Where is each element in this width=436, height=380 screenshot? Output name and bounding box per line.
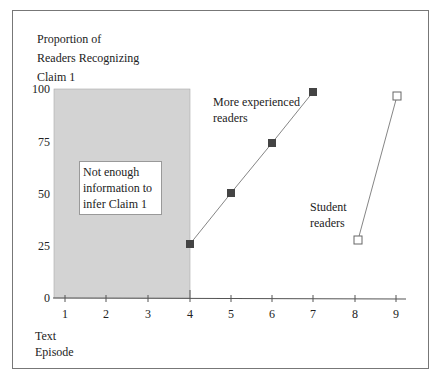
- plot-area: 12 34 56 78 9 0 25 50 75 100: [0, 0, 436, 380]
- svg-text:6: 6: [269, 307, 275, 321]
- x-title-line: Text: [35, 328, 74, 344]
- svg-text:9: 9: [393, 307, 399, 321]
- x-axis-title: Text Episode: [35, 328, 74, 360]
- note-line: Not enough: [83, 164, 158, 180]
- x-tick-labels: 12 34 56 78 9: [62, 307, 399, 321]
- svg-text:5: 5: [228, 307, 234, 321]
- note-line: information to: [83, 180, 158, 196]
- svg-text:50: 50: [38, 187, 50, 201]
- label-line: More experienced: [213, 94, 300, 110]
- y-tick-labels: 0 25 50 75 100: [32, 82, 50, 305]
- series-label-experienced: More experienced readers: [213, 94, 300, 126]
- svg-text:7: 7: [310, 307, 316, 321]
- note-line: infer Claim 1: [83, 196, 158, 212]
- shaded-region-note: Not enough information to infer Claim 1: [79, 161, 162, 215]
- svg-text:4: 4: [187, 307, 193, 321]
- x-title-line: Episode: [35, 344, 74, 360]
- svg-text:100: 100: [32, 82, 50, 96]
- series-label-students: Student readers: [310, 199, 347, 231]
- svg-text:1: 1: [62, 307, 68, 321]
- svg-text:3: 3: [145, 307, 151, 321]
- series-student-line: [358, 96, 397, 240]
- label-line: readers: [310, 215, 347, 231]
- svg-text:8: 8: [352, 307, 358, 321]
- label-line: Student: [310, 199, 347, 215]
- svg-text:2: 2: [103, 307, 109, 321]
- svg-text:0: 0: [44, 291, 50, 305]
- svg-text:75: 75: [38, 135, 50, 149]
- label-line: readers: [213, 110, 300, 126]
- svg-text:25: 25: [38, 239, 50, 253]
